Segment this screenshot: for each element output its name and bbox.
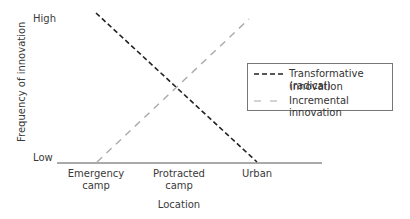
- x-axis-title: Location: [147, 199, 211, 211]
- x-tick-emergency-camp: Emergency camp: [64, 168, 128, 192]
- x-tick-label: camp: [64, 180, 128, 192]
- series-incremental-line: [97, 19, 249, 162]
- y-axis-title: Frequency of innovation: [16, 22, 27, 142]
- x-tick-label: Emergency: [64, 168, 128, 180]
- x-tick-protracted-camp: Protracted camp: [147, 168, 211, 192]
- legend-item-incremental: Incremental innovation: [289, 95, 392, 119]
- y-tick-low: Low: [33, 152, 53, 164]
- y-tick-high: High: [33, 13, 56, 25]
- x-tick-label: Protracted: [147, 168, 211, 180]
- legend: Transformative (radical) innovation Incr…: [247, 63, 393, 111]
- legend-item-transformative-cont: innovation: [290, 81, 343, 93]
- x-tick-label: camp: [147, 180, 211, 192]
- x-tick-urban: Urban: [237, 168, 277, 180]
